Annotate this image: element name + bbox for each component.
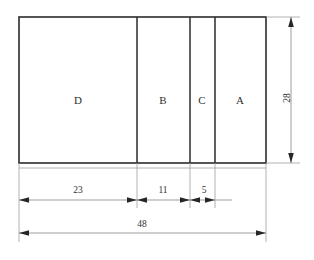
dimension-label-23: 23: [73, 185, 83, 195]
section-label-d: D: [74, 94, 82, 106]
dimension-label-48: 48: [137, 219, 147, 229]
section-label-c: C: [198, 94, 206, 106]
diagram-vector-layer: [0, 0, 314, 260]
arrow-48-left: [19, 230, 29, 236]
section-label-a: A: [236, 94, 244, 106]
dimension-label-5: 5: [202, 185, 207, 195]
arrow-11-left: [137, 197, 147, 203]
dimension-label-28: 28: [282, 93, 292, 103]
arrow-48-right: [256, 230, 266, 236]
arrow-28-bottom: [288, 153, 294, 163]
arrow-28-top: [288, 17, 294, 27]
arrow-23-right: [127, 197, 137, 203]
section-label-b: B: [159, 94, 167, 106]
arrow-23-left: [19, 197, 29, 203]
arrow-5-left: [190, 197, 200, 203]
main-rectangle: [19, 17, 266, 163]
arrow-11-right: [180, 197, 190, 203]
diagram-canvas: D B C A 23 11 5 48 28: [0, 0, 314, 260]
arrow-5-right: [205, 197, 215, 203]
dimension-label-11: 11: [158, 185, 167, 195]
